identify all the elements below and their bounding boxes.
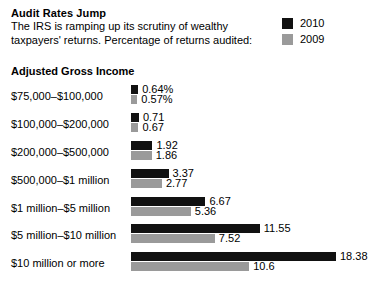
bar-value-label: 11.55 xyxy=(264,224,291,233)
page-title: Audit Rates Jump xyxy=(11,7,106,19)
category-label: $10 million or more xyxy=(11,257,105,269)
bar-row: $200,000–$500,0001.921.86 xyxy=(0,139,370,167)
bar-group: 11.557.52 xyxy=(131,224,291,243)
bar-row: $10 million or more18.3810.6 xyxy=(0,250,370,278)
legend-item-2010: 2010 xyxy=(282,15,324,31)
bar-value-label: 5.36 xyxy=(195,207,216,216)
bar-group: 0.64%0.57% xyxy=(131,85,173,104)
legend-swatch-2009 xyxy=(282,34,293,45)
legend-swatch-2010 xyxy=(282,18,293,29)
bar-group: 3.372.77 xyxy=(131,169,194,188)
bar-value-label: 18.38 xyxy=(340,252,368,261)
bar-2010 xyxy=(131,141,152,150)
bar-line-2009: 0.57% xyxy=(131,95,173,104)
category-label: $5 million–$10 million xyxy=(11,229,116,241)
bar-line-2009: 7.52 xyxy=(131,234,291,243)
bar-line-2010: 11.55 xyxy=(131,224,291,233)
bar-2009 xyxy=(131,262,249,271)
bar-value-label: 0.57% xyxy=(141,95,172,104)
bar-line-2009: 2.77 xyxy=(131,179,194,188)
category-label: $100,000–$200,000 xyxy=(11,118,109,130)
bar-2010 xyxy=(131,252,336,261)
bar-line-2009: 5.36 xyxy=(131,207,231,216)
bar-line-2009: 0.67 xyxy=(131,123,164,132)
bar-row: $5 million–$10 million11.557.52 xyxy=(0,222,370,250)
category-label: $200,000–$500,000 xyxy=(11,146,109,158)
legend-item-2009: 2009 xyxy=(282,31,324,47)
bar-row: $1 million–$5 million6.675.36 xyxy=(0,195,370,223)
category-label: $500,000–$1 million xyxy=(11,174,109,186)
axis-heading: Adjusted Gross Income xyxy=(11,65,134,77)
bar-2009 xyxy=(131,95,137,104)
bar-2010 xyxy=(131,224,260,233)
bar-2009 xyxy=(131,207,191,216)
bar-line-2010: 18.38 xyxy=(131,252,368,261)
bar-2009 xyxy=(131,234,215,243)
bar-row: $500,000–$1 million3.372.77 xyxy=(0,167,370,195)
bar-row: $75,000–$100,0000.64%0.57% xyxy=(0,83,370,111)
bar-2009 xyxy=(131,151,152,160)
bar-value-label: 0.67 xyxy=(142,123,163,132)
bar-value-label: 7.52 xyxy=(219,234,240,243)
chart-legend: 2010 2009 xyxy=(282,15,324,47)
bar-value-label: 10.6 xyxy=(253,262,274,271)
bar-line-2009: 1.86 xyxy=(131,151,178,160)
category-label: $1 million–$5 million xyxy=(11,202,110,214)
bar-2010 xyxy=(131,85,138,94)
bar-2010 xyxy=(131,113,139,122)
subtitle-line-1: The IRS is ramping up its scrutiny of we… xyxy=(11,20,246,34)
bar-2009 xyxy=(131,123,138,132)
subtitle: The IRS is ramping up its scrutiny of we… xyxy=(11,20,246,47)
bar-row: $100,000–$200,0000.710.67 xyxy=(0,111,370,139)
bar-2010 xyxy=(131,169,169,178)
bar-line-2009: 10.6 xyxy=(131,262,368,271)
bar-rows: $75,000–$100,0000.64%0.57%$100,000–$200,… xyxy=(0,83,370,278)
bar-group: 0.710.67 xyxy=(131,113,164,132)
bar-value-label: 1.86 xyxy=(156,151,177,160)
legend-label-2009: 2009 xyxy=(300,33,324,45)
subtitle-line-2: taxpayers' returns. Percentage of return… xyxy=(11,34,246,48)
chart-figure: Audit Rates Jump The IRS is ramping up i… xyxy=(0,0,370,286)
bar-2009 xyxy=(131,179,162,188)
bar-group: 18.3810.6 xyxy=(131,252,368,271)
legend-label-2010: 2010 xyxy=(300,17,324,29)
bar-group: 1.921.86 xyxy=(131,141,178,160)
category-label: $75,000–$100,000 xyxy=(11,90,103,102)
bar-group: 6.675.36 xyxy=(131,197,231,216)
bar-value-label: 2.77 xyxy=(166,179,187,188)
